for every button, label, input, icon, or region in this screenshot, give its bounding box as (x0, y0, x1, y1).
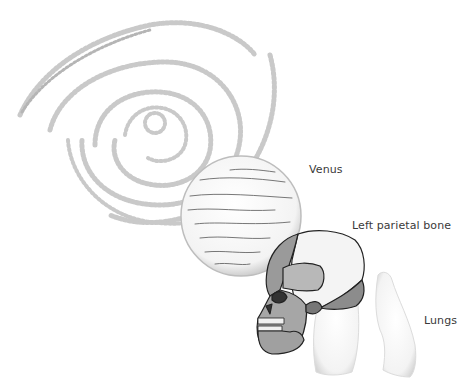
venus-label: Venus (309, 163, 343, 176)
lungs-label: Lungs (424, 314, 457, 327)
illustration-canvas (0, 0, 467, 392)
left-parietal-bone-label: Left parietal bone (352, 219, 451, 232)
